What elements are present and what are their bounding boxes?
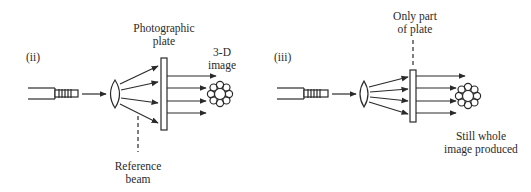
plate-label-line1: Photographic [128,22,200,35]
result-label-line1: Still whole [436,130,526,143]
reference-label-line2: beam [106,173,170,186]
panel-iii [277,40,481,122]
result-label-line2: image produced [436,143,526,156]
partial-plate-label-line1: Only part [384,10,446,23]
whole-image-label: Still whole image produced [436,130,526,156]
panel-ii-label: (ii) [26,51,40,63]
partial-plate-label-line2: of plate [384,23,446,36]
partial-plate-label: Only part of plate [384,10,446,36]
partial-plate [410,70,416,122]
reference-label-line1: Reference [106,160,170,173]
panel-ii [28,58,233,152]
lens-icon [360,81,368,107]
flower-image-icon [207,81,232,106]
flower-image-icon [455,83,480,108]
holography-diagram [0,0,531,192]
photographic-plate-label: Photographic plate [128,22,200,48]
image-label-line2: image [200,59,244,72]
plate-label-line2: plate [128,35,200,48]
3d-image-label: 3-D image [200,46,244,72]
lens-icon [111,80,120,108]
image-label-line1: 3-D [200,46,244,59]
panel-iii-label: (iii) [274,51,291,63]
reference-beam-label: Reference beam [106,160,170,186]
laser-icon [277,88,328,99]
laser-icon [28,88,78,99]
photographic-plate [161,58,167,130]
